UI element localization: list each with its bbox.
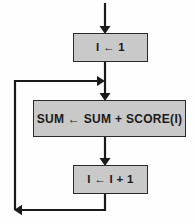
connector-loop-back: [14, 76, 105, 215]
connector-accumulate-to-increment: [100, 137, 111, 166]
process-box-initialize-index: I ← 1: [73, 33, 148, 62]
process-box-label: SUM ← SUM + SCORE(I): [37, 113, 183, 125]
process-box-label: I ← I + 1: [87, 174, 133, 186]
process-box-increment-index: I ← I + 1: [73, 165, 148, 194]
process-box-label: I ← 1: [96, 42, 125, 54]
connector-entry-arrow: [100, 3, 111, 34]
flowchart-canvas: I ← 1 SUM ← SUM + SCORE(I) I ← I + 1: [0, 0, 195, 224]
process-box-accumulate-sum: SUM ← SUM + SCORE(I): [33, 100, 186, 137]
